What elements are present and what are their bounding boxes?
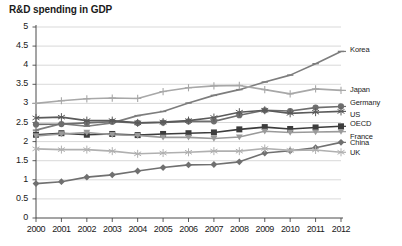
data-point-marker: [185, 84, 192, 91]
y-axis-tick-label: 4.5: [2, 40, 28, 50]
chart-plot-area: [0, 0, 402, 246]
data-point-marker: [211, 161, 218, 168]
y-axis-tick-label: 1.5: [2, 155, 28, 165]
data-point-marker: [159, 88, 166, 95]
data-point-marker: [312, 85, 319, 92]
data-point-marker: [109, 171, 116, 178]
chart-figure: R&D spending in GDP 00.511.522.533.544.5…: [0, 0, 402, 246]
y-axis-tick-label: 3.5: [2, 78, 28, 88]
y-axis-tick-label: 2.5: [2, 117, 28, 127]
legend-label-korea: Korea: [350, 46, 370, 54]
legend-label-china: China: [350, 139, 369, 147]
data-point-marker: [287, 90, 294, 97]
y-axis-tick-label: 1: [2, 174, 28, 184]
legend-label-japan: Japan: [350, 86, 370, 94]
data-point-marker: [33, 180, 40, 187]
y-axis-tick-label: 3: [2, 97, 28, 107]
data-point-marker: [58, 121, 64, 127]
legend-label-oecd: OECD: [350, 120, 371, 128]
data-point-marker: [185, 162, 192, 169]
data-point-marker: [236, 158, 243, 165]
data-point-marker: [236, 126, 242, 132]
legend-label-uk: UK: [350, 149, 360, 157]
x-axis-tick-label: 2012: [321, 224, 361, 234]
legend-label-germany: Germany: [350, 99, 380, 107]
data-point-marker: [134, 95, 141, 102]
y-axis-tick-label: 4: [2, 59, 28, 69]
y-axis-tick-label: 2: [2, 136, 28, 146]
data-point-marker: [32, 100, 39, 107]
series-uk: [33, 144, 345, 157]
y-axis-tick-label: 0: [2, 212, 28, 222]
y-axis-tick-label: 5: [2, 21, 28, 31]
legend-label-us: US: [350, 111, 360, 119]
data-point-marker: [83, 95, 90, 102]
data-point-marker: [109, 94, 116, 101]
data-point-marker: [210, 82, 217, 89]
data-point-marker: [134, 168, 141, 175]
data-point-marker: [33, 121, 39, 127]
data-point-marker: [211, 129, 217, 135]
data-point-marker: [261, 86, 268, 93]
data-point-marker: [58, 178, 65, 185]
y-axis-tick-label: 0.5: [2, 193, 28, 203]
data-point-marker: [160, 164, 167, 171]
data-point-marker: [236, 82, 243, 89]
